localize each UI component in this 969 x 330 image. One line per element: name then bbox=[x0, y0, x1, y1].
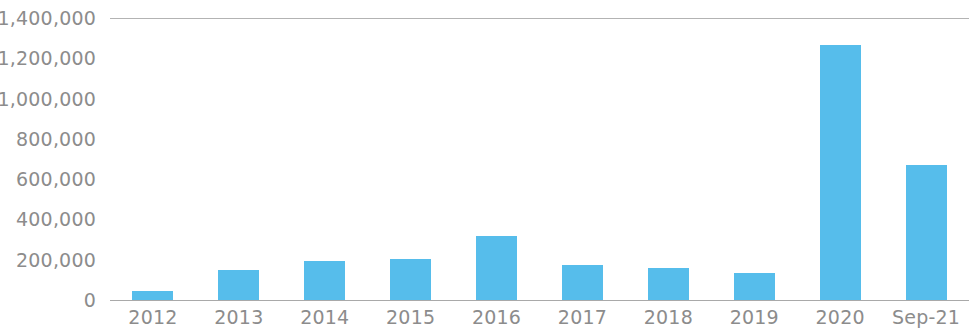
x-tick-label: 2016 bbox=[472, 306, 521, 328]
x-tick-label: 2012 bbox=[128, 306, 177, 328]
y-tick-label: 1,000,000 bbox=[0, 88, 96, 110]
x-axis: 201220132014201520162017201820192020Sep-… bbox=[110, 0, 969, 330]
x-tick-label: 2020 bbox=[816, 306, 865, 328]
y-axis: 0200,000400,000600,000800,0001,000,0001,… bbox=[0, 0, 104, 330]
x-tick-label: 2017 bbox=[558, 306, 607, 328]
y-tick-label: 800,000 bbox=[16, 128, 96, 150]
y-tick-label: 0 bbox=[84, 289, 96, 311]
y-tick-label: 200,000 bbox=[16, 249, 96, 271]
y-tick-label: 1,400,000 bbox=[0, 7, 96, 29]
y-tick-label: 400,000 bbox=[16, 208, 96, 230]
y-tick-label: 600,000 bbox=[16, 168, 96, 190]
x-tick-label: 2015 bbox=[386, 306, 435, 328]
y-tick-label: 1,200,000 bbox=[0, 47, 96, 69]
x-tick-label: Sep-21 bbox=[892, 306, 960, 328]
x-tick-label: 2014 bbox=[300, 306, 349, 328]
x-tick-label: 2018 bbox=[644, 306, 693, 328]
x-tick-label: 2019 bbox=[730, 306, 779, 328]
bar-chart: 0200,000400,000600,000800,0001,000,0001,… bbox=[0, 0, 969, 330]
x-tick-label: 2013 bbox=[214, 306, 263, 328]
plot-area: 201220132014201520162017201820192020Sep-… bbox=[110, 0, 969, 330]
